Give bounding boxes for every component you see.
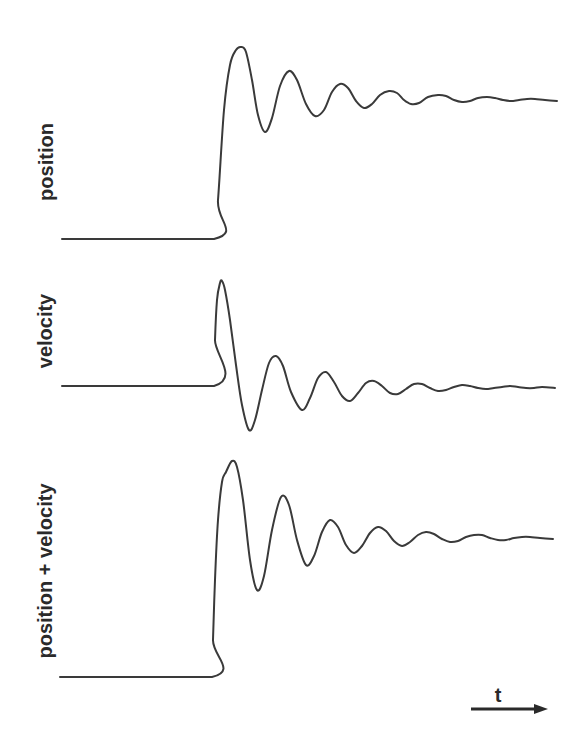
position-plus-velocity-curve	[60, 461, 553, 677]
panel-position-plus-velocity: position + velocity	[34, 461, 553, 677]
ylabel-position-plus-velocity: position + velocity	[34, 483, 56, 659]
position-curve	[62, 47, 557, 239]
damped-response-figure: position velocity position + velocity t	[0, 0, 582, 750]
ylabel-velocity: velocity	[34, 293, 56, 368]
arrow-right-icon	[534, 704, 548, 714]
velocity-curve	[62, 280, 555, 430]
time-label: t	[495, 684, 502, 706]
time-axis-indicator: t	[471, 684, 548, 714]
ylabel-position: position	[35, 123, 57, 201]
panel-velocity: velocity	[34, 280, 555, 430]
panel-position: position	[35, 47, 557, 239]
